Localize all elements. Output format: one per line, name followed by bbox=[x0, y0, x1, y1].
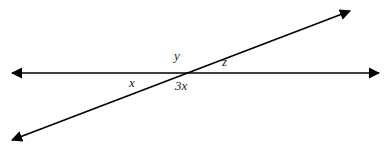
transversal-line bbox=[12, 11, 350, 140]
angle-label-z: z bbox=[221, 54, 227, 69]
intersecting-lines-diagram: y z x 3x bbox=[0, 0, 389, 150]
angle-label-x: x bbox=[128, 75, 135, 90]
angle-label-y: y bbox=[172, 48, 180, 63]
angle-label-3x: 3x bbox=[174, 78, 188, 93]
